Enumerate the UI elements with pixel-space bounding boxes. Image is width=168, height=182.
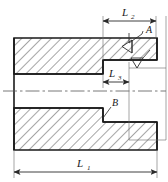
dim-label-l2-base: L (121, 6, 128, 18)
dim-label-l3-base: L (108, 67, 115, 79)
dimension-l1: L 1 (14, 157, 157, 172)
technical-drawing-canvas: L 1 L 2 L 3 A B (0, 0, 168, 182)
dim-label-l3-subscript: 3 (117, 74, 122, 82)
part-body-section (14, 38, 157, 150)
dim-label-l2-subscript: 2 (131, 13, 135, 21)
callout-b-label: B (112, 97, 118, 108)
lower-section-hatch (14, 108, 157, 150)
callout-b-leader (103, 107, 111, 118)
callout-a-leader-tail (142, 31, 143, 34)
dimension-l2: L 2 (103, 6, 156, 21)
upper-section-hatch (14, 38, 157, 74)
dimension-l3: L 3 (103, 67, 129, 82)
detail-callout-b: B (103, 97, 118, 118)
section-view-drawing: L 1 L 2 L 3 A B (0, 0, 168, 182)
callout-a-label: A (145, 24, 153, 35)
dim-label-l1-base: L (76, 157, 83, 169)
dim-label-l1-subscript: 1 (87, 164, 91, 172)
